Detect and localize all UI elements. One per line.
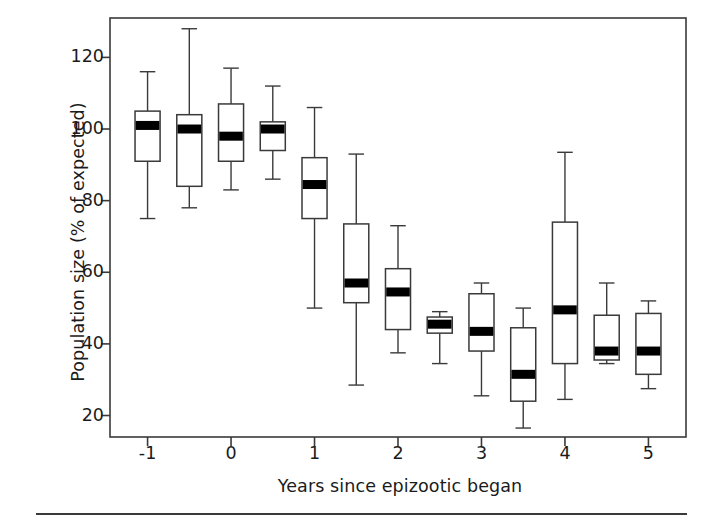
iqr-box — [469, 294, 494, 351]
median-bar — [261, 125, 285, 134]
box-plot-item — [427, 312, 452, 364]
y-tick-label: 20 — [52, 407, 104, 425]
median-bar — [344, 279, 368, 288]
x-tick-label: 5 — [628, 445, 668, 463]
box-plot-item — [552, 152, 577, 399]
median-bar — [303, 180, 327, 189]
box-plot-item — [636, 301, 661, 389]
box-plot-series — [135, 29, 661, 428]
median-bar — [219, 132, 243, 141]
median-bar — [470, 327, 494, 336]
iqr-box — [385, 269, 410, 330]
median-bar — [386, 287, 410, 296]
median-bar — [428, 320, 452, 329]
median-bar — [178, 125, 202, 134]
median-bar — [637, 347, 661, 356]
iqr-box — [344, 224, 369, 303]
box-plot-item — [135, 72, 160, 219]
y-tick-label: 40 — [52, 335, 104, 353]
y-tick-label: 60 — [52, 264, 104, 282]
figure-container: Population size (% of expected) 20406080… — [0, 0, 721, 521]
iqr-box — [552, 222, 577, 363]
figure-bottom-rule — [36, 513, 687, 515]
y-tick-label: 80 — [52, 192, 104, 210]
iqr-box — [511, 328, 536, 401]
box-plot-item — [219, 68, 244, 190]
x-tick-label: 4 — [545, 445, 585, 463]
y-tick-label: 100 — [52, 120, 104, 138]
iqr-box — [135, 111, 160, 161]
median-bar — [553, 305, 577, 314]
box-plot-item — [344, 154, 369, 385]
box-plot-item — [511, 308, 536, 428]
box-plot-item — [594, 283, 619, 364]
box-plot-item — [302, 108, 327, 309]
x-tick-label: 1 — [295, 445, 335, 463]
y-tick-label: 120 — [52, 49, 104, 67]
box-plot-item — [385, 226, 410, 353]
boxplot-canvas — [0, 0, 721, 521]
x-tick-label: -1 — [128, 445, 168, 463]
box-plot-item — [469, 283, 494, 396]
box-plot-item — [260, 86, 285, 179]
median-bar — [595, 347, 619, 356]
box-plot-item — [177, 29, 202, 208]
x-tick-label: 2 — [378, 445, 418, 463]
iqr-box — [636, 313, 661, 374]
median-bar — [511, 370, 535, 379]
x-tick-label: 0 — [211, 445, 251, 463]
median-bar — [136, 121, 160, 130]
x-axis-title: Years since epizootic began — [110, 476, 690, 496]
x-tick-label: 3 — [461, 445, 501, 463]
y-axis-tick-labels: 20406080100120 — [32, 0, 104, 521]
